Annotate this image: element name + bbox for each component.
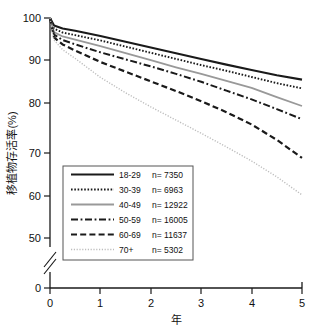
y-tick-label-50: 50	[29, 232, 41, 244]
x-tick-label-1: 1	[97, 297, 103, 309]
legend-n-4: n= 11637	[152, 230, 187, 240]
legend-n-5: n= 5302	[152, 245, 183, 255]
x-tick-label-4: 4	[249, 297, 255, 309]
legend: 18-29 n= 7350 30-39 n= 6963 40-49 n= 129…	[63, 166, 193, 260]
legend-n-3: n= 16005	[152, 215, 188, 225]
y-axis-title: 移植物存活率(%)	[5, 111, 18, 194]
y-tick-label-0: 0	[35, 282, 41, 294]
legend-label-0: 18-29	[119, 170, 141, 180]
legend-label-2: 40-49	[119, 200, 141, 210]
y-tick-label-80: 80	[29, 97, 41, 109]
legend-label-3: 50-59	[119, 215, 141, 225]
y-tick-label-100: 100	[23, 12, 41, 24]
y-tick-label-70: 70	[29, 147, 41, 159]
legend-n-1: n= 6963	[152, 185, 183, 195]
x-tick-label-3: 3	[198, 297, 204, 309]
y-tick-label-90: 90	[29, 54, 41, 66]
legend-label-4: 60-69	[119, 230, 141, 240]
x-tick-label-5: 5	[299, 297, 305, 309]
legend-label-1: 30-39	[119, 185, 141, 195]
legend-n-0: n= 7350	[152, 170, 183, 180]
legend-label-5: 70+	[119, 245, 133, 255]
y-tick-label-60: 60	[29, 190, 41, 202]
survival-curve-chart: 100 90 80 70 60 50 0 0 1 2 3 4 5 移植物存活率(…	[0, 0, 318, 330]
x-tick-label-0: 0	[47, 297, 53, 309]
legend-n-2: n= 12922	[152, 200, 188, 210]
x-tick-label-2: 2	[148, 297, 154, 309]
x-axis-title: 年	[171, 313, 182, 326]
